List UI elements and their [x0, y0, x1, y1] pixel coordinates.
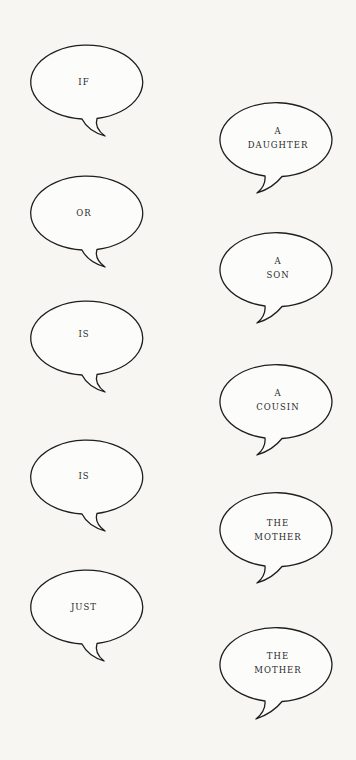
speech-bubble-icon [31, 45, 143, 136]
bubble-line: IF [28, 75, 140, 89]
speech-bubble-left-1 [31, 45, 143, 136]
bubble-text-the-mother-1: THE MOTHER [222, 516, 334, 544]
bubble-line: IS [28, 327, 140, 341]
bubble-text-or: OR [28, 206, 140, 220]
bubble-text-is-1: IS [28, 327, 140, 341]
bubble-text-the-mother-2: THE MOTHER [222, 649, 334, 677]
speech-bubble-left-3 [31, 301, 143, 392]
bubble-line: SON [222, 268, 334, 282]
bubble-text-if: IF [28, 75, 140, 89]
speech-bubbles-layer [0, 0, 356, 760]
bubble-text-just: JUST [28, 600, 140, 614]
bubble-line: THE [222, 649, 334, 663]
bubble-line: IS [28, 469, 140, 483]
bubble-text-a-cousin: A COUSIN [222, 386, 334, 414]
speech-bubble-icon [31, 176, 143, 267]
bubble-text-is-2: IS [28, 469, 140, 483]
speech-bubble-icon [31, 301, 143, 392]
bubble-line: A [222, 386, 334, 400]
bubble-line: A [222, 124, 334, 138]
bubble-text-a-daughter: A DAUGHTER [222, 124, 334, 152]
speech-bubble-icon [31, 570, 143, 661]
bubble-line: COUSIN [222, 400, 334, 414]
bubble-line: DAUGHTER [222, 138, 334, 152]
page: IF OR IS IS JUST A DAUGHTER A SON A COUS… [0, 0, 356, 760]
speech-bubble-left-5 [31, 570, 143, 661]
speech-bubble-left-4 [31, 440, 143, 531]
speech-bubble-icon [31, 440, 143, 531]
speech-bubble-left-2 [31, 176, 143, 267]
bubble-line: MOTHER [222, 663, 334, 677]
bubble-line: A [222, 254, 334, 268]
bubble-line: OR [28, 206, 140, 220]
bubble-line: MOTHER [222, 530, 334, 544]
bubble-text-a-son: A SON [222, 254, 334, 282]
bubble-line: THE [222, 516, 334, 530]
bubble-line: JUST [28, 600, 140, 614]
